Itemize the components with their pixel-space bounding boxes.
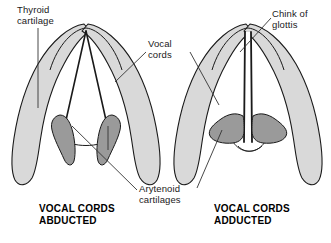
- label-chink-of-glottis: Chink of glottis: [272, 8, 308, 30]
- caption-vocal-cords-abducted: VOCAL CORDS ABDUCTED: [39, 203, 115, 226]
- caption-vocal-cords-adducted: VOCAL CORDS ADDUCTED: [214, 203, 290, 226]
- thyroid-cartilage-left-wing-adducted: [174, 24, 252, 185]
- label-thyroid-cartilage: Thyroid cartilage: [17, 4, 54, 26]
- arytenoid-cartilage-right-adducted: [252, 114, 287, 143]
- panel-adducted: [174, 24, 322, 185]
- label-arytenoid-cartilages: Arytenoid cartilages: [139, 183, 181, 205]
- label-vocal-cords: Vocal cords: [148, 38, 172, 60]
- thyroid-cartilage-right-wing-adducted: [244, 24, 322, 185]
- panel-abducted: [12, 24, 160, 185]
- arytenoid-cartilage-left-adducted: [209, 114, 244, 143]
- larynx-diagram-figure: Thyroid cartilage Vocal cords Chink of g…: [0, 0, 331, 243]
